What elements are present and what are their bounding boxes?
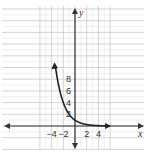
y-tick-label: 4: [66, 98, 71, 108]
y-axis-label: y: [78, 7, 84, 18]
y-tick-label: 6: [66, 86, 71, 96]
exponential-graph: −4−2242468 x y: [0, 0, 146, 153]
x-tick-label: 2: [84, 129, 89, 139]
y-tick-label: 8: [66, 74, 71, 84]
x-axis-left-arrow-icon: [4, 123, 10, 129]
x-tick-label: 4: [96, 129, 101, 139]
y-axis-down-arrow-icon: [72, 143, 78, 149]
x-axis-label: x: [137, 128, 143, 139]
x-tick-label: −4: [46, 129, 56, 139]
x-tick-label: −2: [58, 129, 68, 139]
curve-up-arrow-icon: [51, 62, 58, 69]
grid-lines: [2, 6, 144, 150]
axes: [4, 8, 144, 149]
